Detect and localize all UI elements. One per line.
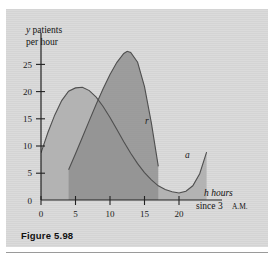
chart-plot: 25 20 15 10 5 0 0 5 10 15 20 y patients … (0, 0, 274, 264)
y-tick-label-10: 10 (23, 141, 33, 151)
y-tick-label-0: 0 (28, 196, 33, 206)
curve-label-r: r (145, 116, 149, 126)
x-tick-label-0: 0 (39, 209, 44, 219)
x-tick-label-15: 15 (140, 209, 150, 219)
y-tick-label-5: 5 (28, 168, 33, 178)
x-tick-label-5: 5 (73, 209, 78, 219)
figure-caption: Figure 5.98 (21, 230, 73, 241)
y-tick-label-25: 25 (23, 60, 33, 70)
figure-container: 25 20 15 10 5 0 0 5 10 15 20 y patients … (0, 0, 274, 264)
y-axis-title-rendered-line2: per hour (26, 37, 59, 47)
y-tick-label-15: 15 (23, 114, 33, 124)
curve-label-a: a (185, 150, 190, 160)
x-axis-title-line1: h hours (204, 188, 233, 198)
x-axis-title-line2-prefix: since 3 (196, 201, 223, 211)
x-axis-title-line2-smallcaps: A.M. (232, 202, 248, 211)
y-tick-label-20: 20 (23, 87, 33, 97)
x-tick-label-10: 10 (106, 209, 116, 219)
y-axis-title-rendered-line1: y patients (25, 25, 62, 35)
x-tick-label-20: 20 (175, 209, 185, 219)
caption-divider-rule (6, 252, 268, 253)
